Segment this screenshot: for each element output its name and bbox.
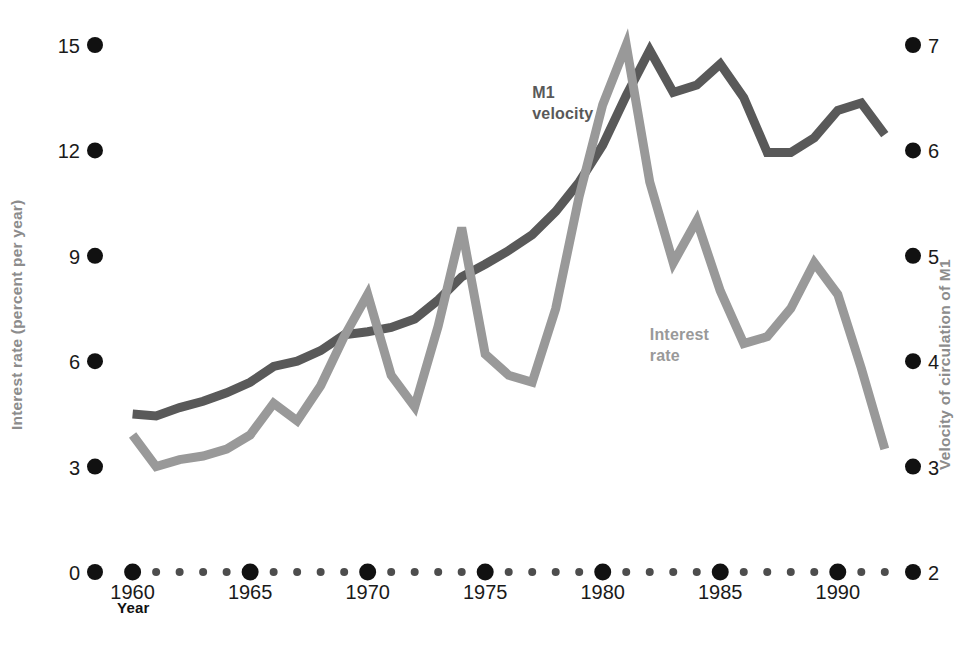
x-axis-minor-tick-dot [740, 568, 748, 576]
x-axis-minor-tick-dot [693, 568, 701, 576]
x-axis-minor-tick-dot [505, 568, 513, 576]
x-axis-major-tick-dot [359, 564, 376, 581]
y-axis-right-tick-dot [905, 248, 921, 264]
y-axis-right-tick-label: 2 [928, 562, 939, 584]
x-axis-minor-tick-dot [270, 568, 278, 576]
y-axis-right-tick-dot [905, 459, 921, 475]
y-axis-left-title: Interest rate (percent per year) [8, 200, 25, 430]
x-axis-minor-tick-dot [669, 568, 677, 576]
x-axis-title: Year [117, 599, 150, 616]
x-axis-tick-label: 1980 [580, 581, 625, 603]
x-axis-minor-tick-dot [317, 568, 325, 576]
x-axis-tick-label: 1975 [463, 581, 508, 603]
x-axis-tick-label: 1965 [228, 581, 273, 603]
x-axis-tick-label: 1985 [698, 581, 743, 603]
y-axis-left-tick-label: 3 [69, 457, 80, 479]
y-axis-right-tick-dot [905, 353, 921, 369]
y-axis-right-tick-dot [905, 37, 921, 53]
x-axis-minor-tick-dot [787, 568, 795, 576]
y-axis-right-tick-dot [905, 564, 921, 580]
y-axis-left-tick-dot [87, 353, 103, 369]
x-axis-minor-tick-dot [387, 568, 395, 576]
x-axis-major-tick-dot [712, 564, 729, 581]
annotation-line: velocity [532, 105, 593, 122]
x-axis-major-tick-dot [594, 564, 611, 581]
x-axis-minor-tick-dot [176, 568, 184, 576]
x-axis-minor-tick-dot [763, 568, 771, 576]
x-axis-minor-tick-dot [552, 568, 560, 576]
y-axis-left-tick-label: 12 [58, 140, 80, 162]
x-axis-tick-label: 1990 [816, 581, 861, 603]
economics-line-chart: 03691215 234567 196019651970197519801985… [0, 0, 962, 646]
x-axis-minor-tick-dot [223, 568, 231, 576]
y-axis-right-title: Velocity of circulation of M1 [936, 259, 953, 470]
x-axis-tick-label: 1970 [345, 581, 390, 603]
x-axis-minor-tick-dot [881, 568, 889, 576]
x-axis-minor-tick-dot [575, 568, 583, 576]
annotation-line: Interest [650, 326, 710, 343]
y-axis-left-tick-dot [87, 564, 103, 580]
y-axis-left-tick-label: 9 [69, 246, 80, 268]
y-axis-right-tick-label: 7 [928, 35, 939, 57]
x-axis-minor-tick-dot [622, 568, 630, 576]
x-axis-minor-tick-dot [411, 568, 419, 576]
x-axis-minor-tick-dot [857, 568, 865, 576]
annotation-line: rate [650, 347, 680, 364]
x-axis-major-tick-dot [242, 564, 259, 581]
x-axis-minor-tick-dot [434, 568, 442, 576]
y-axis-left-tick-dot [87, 142, 103, 158]
y-axis-right-tick-label: 6 [928, 140, 939, 162]
x-axis-minor-tick-dot [646, 568, 654, 576]
y-axis-left-tick-label: 0 [69, 562, 80, 584]
annotation-line: M1 [532, 84, 555, 101]
x-axis-major-tick-dot [829, 564, 846, 581]
y-axis-left-tick-label: 6 [69, 351, 80, 373]
y-axis-left-tick-dot [87, 459, 103, 475]
x-axis-major-tick-dot [124, 564, 141, 581]
y-axis-left-tick-dot [87, 248, 103, 264]
y-axis-left-tick-label: 15 [58, 35, 80, 57]
x-axis-major-tick-dot [477, 564, 494, 581]
x-axis-minor-tick-dot [293, 568, 301, 576]
x-axis-minor-tick-dot [199, 568, 207, 576]
x-axis-minor-tick-dot [458, 568, 466, 576]
x-axis-minor-tick-dot [810, 568, 818, 576]
x-axis-minor-tick-dot [528, 568, 536, 576]
chart-container: 03691215 234567 196019651970197519801985… [0, 0, 962, 646]
x-axis-minor-tick-dot [340, 568, 348, 576]
y-axis-right-tick-dot [905, 142, 921, 158]
x-axis-minor-tick-dot [152, 568, 160, 576]
y-axis-left-tick-dot [87, 37, 103, 53]
